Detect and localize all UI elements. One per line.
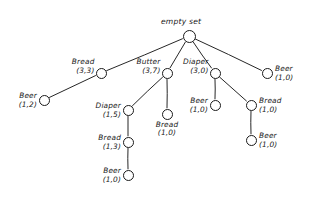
node-count-text: (3,7) <box>127 67 161 76</box>
tree-node-label-beer12: Beer(1,2) <box>3 92 37 109</box>
tree-node-diaper30[interactable] <box>210 68 221 79</box>
tree-node-label-beer10deep: Beer(1,0) <box>87 167 121 184</box>
tree-node-label-bread33: Bread(3,3) <box>61 58 95 75</box>
tree-node-label-bread10r: Bread(1,0) <box>259 97 293 114</box>
tree-node-bread33[interactable] <box>96 68 107 79</box>
tree-node-diaper15[interactable] <box>123 105 134 116</box>
node-count-text: (1,2) <box>3 101 37 110</box>
tree-node-label-root: empty set <box>161 17 201 26</box>
tree-node-bread10mid[interactable] <box>162 109 173 120</box>
tree-node-beer10br[interactable] <box>246 135 257 146</box>
tree-node-label-bread10mid: Bread(1,0) <box>150 121 184 138</box>
tree-node-butter37[interactable] <box>162 68 173 79</box>
node-count-text: (1,0) <box>259 106 293 115</box>
tree-node-root[interactable] <box>183 30 196 43</box>
tree-edge <box>132 77 162 106</box>
tree-edge <box>220 77 247 101</box>
tree-node-beer12[interactable] <box>39 95 50 106</box>
tree-node-bread13[interactable] <box>123 137 134 148</box>
tree-node-label-diaper30: Diaper(3,0) <box>175 58 209 75</box>
tree-node-beer10deep[interactable] <box>123 170 134 181</box>
tree-node-bread10r[interactable] <box>246 100 257 111</box>
tree-edge <box>50 76 96 98</box>
tree-node-beer10mid[interactable] <box>210 100 221 111</box>
node-count-text: (1,0) <box>150 129 184 138</box>
tree-node-label-beer10right: Beer(1,0) <box>275 65 309 82</box>
node-count-text: (1,3) <box>87 143 121 152</box>
node-count-text: (1,0) <box>174 106 208 115</box>
node-count-text: (1,0) <box>87 176 121 185</box>
tree-node-label-diaper15: Diaper(1,5) <box>87 102 121 119</box>
node-count-text: (1,0) <box>259 141 293 150</box>
node-count-text: (1,0) <box>275 74 309 83</box>
node-count-text: (1,5) <box>87 111 121 120</box>
node-count-text: (3,0) <box>175 67 209 76</box>
tree-node-label-beer10mid: Beer(1,0) <box>174 97 208 114</box>
tree-diagram-canvas: empty setBread(3,3)Butter(3,7)Diaper(3,0… <box>0 0 309 212</box>
tree-node-label-beer10br: Beer(1,0) <box>259 132 293 149</box>
tree-node-label-butter37: Butter(3,7) <box>127 58 161 75</box>
tree-node-label-bread13: Bread(1,3) <box>87 134 121 151</box>
tree-node-beer10right[interactable] <box>262 68 273 79</box>
node-count-text: (3,3) <box>61 67 95 76</box>
